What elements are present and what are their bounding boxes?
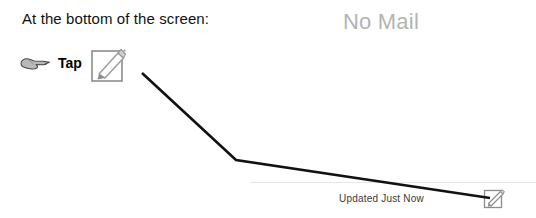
tap-action-label: Tap [58,56,82,70]
instruction-heading: At the bottom of the screen: [22,10,209,27]
screenshot-canvas: No Mail Updated Just Now At the bottom o… [0,0,536,218]
updated-status-label: Updated Just Now [339,193,424,204]
compose-icon[interactable] [481,185,507,209]
toolbar-divider [250,182,536,183]
compose-icon[interactable] [88,44,130,82]
tap-callout: Tap [18,46,130,80]
empty-state-label: No Mail [343,9,419,35]
pointing-hand-icon [18,53,52,73]
annotation-leader-line [0,0,536,218]
